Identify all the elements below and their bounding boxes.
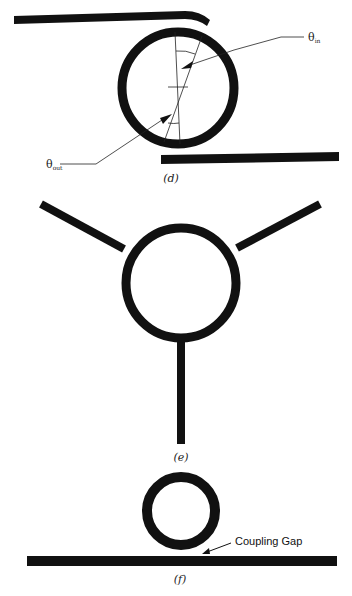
- straight-feed-line: [27, 556, 337, 566]
- theta-out-arrowhead: [160, 114, 172, 124]
- caption-e: (e): [173, 451, 188, 464]
- feed-line-right: [237, 204, 320, 248]
- panel-d: θin θout (d): [14, 11, 339, 185]
- ring-resonator-d: [122, 32, 234, 144]
- caption-f: (f): [174, 573, 187, 586]
- top-coupling-line: [14, 11, 210, 26]
- ring-resonator-e: [126, 228, 236, 338]
- tilted-axis-line: [164, 36, 202, 142]
- angle-arc-in: [176, 51, 195, 54]
- theta-out-label: θout: [46, 158, 63, 171]
- caption-d: (d): [163, 172, 179, 185]
- coupling-gap-arrowhead: [202, 548, 210, 554]
- bottom-coupling-line: [161, 152, 339, 164]
- feed-line-left: [41, 204, 124, 249]
- vertical-axis-line: [175, 32, 180, 144]
- angle-arc-out: [168, 123, 179, 124]
- theta-in-arrowhead: [181, 61, 193, 69]
- ring-resonator-f: [147, 477, 215, 545]
- panel-e: (e): [41, 204, 320, 464]
- coupling-gap-leader: [207, 543, 231, 552]
- theta-in-label: θin: [308, 31, 321, 44]
- panel-f: Coupling Gap (f): [27, 477, 337, 586]
- coupling-gap-label: Coupling Gap: [235, 535, 302, 547]
- figure-canvas: θin θout (d) (e) Coupling Gap (f): [0, 0, 352, 596]
